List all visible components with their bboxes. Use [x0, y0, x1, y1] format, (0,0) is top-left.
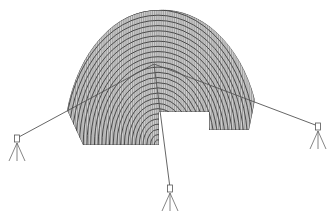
left-tripod-icon — [9, 135, 25, 161]
diagram-canvas — [0, 0, 330, 224]
right-tripod-icon — [310, 123, 326, 149]
scan-mesh — [60, 5, 258, 224]
diagram-svg — [0, 0, 330, 224]
center-tripod-icon — [162, 185, 178, 211]
